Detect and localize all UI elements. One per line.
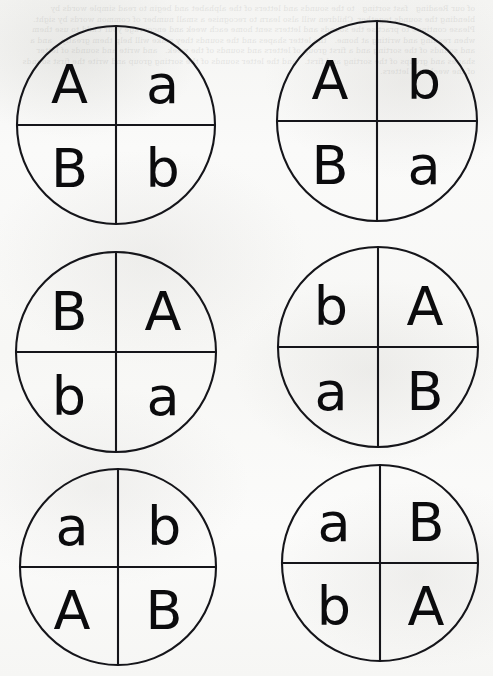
quadrant-top-left-letter: A xyxy=(51,53,88,116)
worksheet-page: of our Reading fast sorting to the sound… xyxy=(0,0,493,676)
quadrant-top-left-letter: A xyxy=(312,49,349,112)
circle-card[interactable]: abAB xyxy=(14,463,222,671)
quadrant-bottom-right-letter: a xyxy=(407,134,440,197)
quadrant-bottom-left-letter: B xyxy=(311,134,348,197)
circle-card[interactable]: AbBa xyxy=(271,15,483,227)
quadrant-top-left-letter: a xyxy=(55,495,88,558)
quadrant-top-left-letter: b xyxy=(314,275,348,338)
quadrant-bottom-left-letter: A xyxy=(53,579,90,642)
quadrant-bottom-right-letter: A xyxy=(408,575,445,638)
quadrant-top-right-letter: b xyxy=(147,495,181,558)
quadrant-bottom-right-letter: B xyxy=(406,360,443,423)
quadrant-top-right-letter: b xyxy=(407,49,441,112)
quadrant-bottom-right-letter: b xyxy=(145,137,179,200)
quadrant-top-left-letter: B xyxy=(50,280,87,343)
circle-card[interactable]: BAba xyxy=(10,246,222,458)
quadrant-bottom-right-letter: B xyxy=(146,579,183,642)
quadrant-bottom-left-letter: a xyxy=(314,360,347,423)
quadrant-bottom-left-letter: b xyxy=(317,575,351,638)
quadrant-top-right-letter: A xyxy=(145,280,182,343)
quadrant-top-left-letter: a xyxy=(317,491,350,554)
circle-card[interactable]: bAaB xyxy=(272,241,484,453)
quadrant-top-right-letter: B xyxy=(408,491,445,554)
quadrant-bottom-left-letter: B xyxy=(51,137,88,200)
circle-card[interactable]: AaBb xyxy=(11,20,221,230)
circle-card[interactable]: aBbA xyxy=(276,459,484,667)
quadrant-top-right-letter: a xyxy=(146,53,179,116)
quadrant-bottom-right-letter: a xyxy=(146,365,179,428)
quadrant-bottom-left-letter: b xyxy=(52,365,86,428)
quadrant-top-right-letter: A xyxy=(407,275,444,338)
